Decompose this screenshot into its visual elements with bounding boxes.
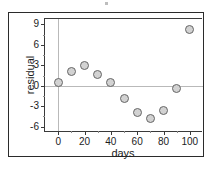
y-tick-label: -3 bbox=[30, 101, 39, 111]
y-tick-minor bbox=[43, 96, 45, 97]
y-tick-minor bbox=[43, 116, 45, 117]
scan-artifact bbox=[105, 2, 108, 5]
x-tick-minor bbox=[124, 131, 125, 133]
y-tick-label: -6 bbox=[30, 122, 39, 132]
x-tick-minor bbox=[71, 131, 72, 133]
residual-plot-figure: residual days -6-30369 020406080100 bbox=[0, 0, 214, 170]
y-tick-mark bbox=[41, 24, 45, 25]
y-tick-label: 9 bbox=[33, 19, 39, 29]
data-point bbox=[67, 67, 76, 76]
x-tick-mark bbox=[111, 131, 112, 135]
data-point bbox=[120, 94, 129, 103]
data-point bbox=[146, 114, 155, 123]
x-tick-mark bbox=[137, 131, 138, 135]
data-point bbox=[172, 84, 181, 93]
data-point bbox=[185, 25, 194, 34]
x-axis-title: days bbox=[111, 147, 134, 159]
x-tick-minor bbox=[150, 131, 151, 133]
data-point bbox=[133, 108, 142, 117]
data-point bbox=[159, 106, 168, 115]
x-tick-label: 40 bbox=[105, 137, 116, 147]
plot-panel: -6-30369 020406080100 bbox=[44, 18, 202, 131]
x-tick-label: 80 bbox=[158, 137, 169, 147]
y-tick-mark bbox=[41, 45, 45, 46]
x-tick-label: 20 bbox=[79, 137, 90, 147]
y-tick-minor bbox=[43, 35, 45, 36]
x-axis-spine bbox=[44, 131, 202, 132]
x-tick-mark bbox=[85, 131, 86, 135]
y-tick-label: 6 bbox=[33, 40, 39, 50]
data-point bbox=[93, 70, 102, 79]
x-tick-label: 0 bbox=[55, 137, 61, 147]
reference-line-vertical bbox=[58, 19, 59, 132]
y-tick-mark bbox=[41, 65, 45, 66]
y-tick-minor bbox=[43, 55, 45, 56]
x-tick-label: 100 bbox=[181, 137, 198, 147]
x-tick-label: 60 bbox=[132, 137, 143, 147]
x-tick-mark bbox=[190, 131, 191, 135]
y-tick-mark bbox=[41, 127, 45, 128]
y-tick-mark bbox=[41, 86, 45, 87]
x-tick-mark bbox=[58, 131, 59, 135]
y-tick-mark bbox=[41, 106, 45, 107]
y-tick-label: 0 bbox=[33, 81, 39, 91]
x-tick-minor bbox=[98, 131, 99, 133]
y-tick-minor bbox=[43, 76, 45, 77]
data-point bbox=[80, 61, 89, 70]
x-tick-minor bbox=[177, 131, 178, 133]
y-tick-label: 3 bbox=[33, 60, 39, 70]
x-tick-mark bbox=[164, 131, 165, 135]
